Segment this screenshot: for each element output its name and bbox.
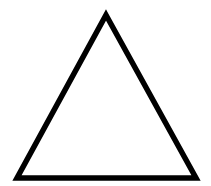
canvas-background bbox=[0, 0, 211, 186]
triangle-figure bbox=[0, 0, 211, 186]
figure-canvas bbox=[0, 0, 211, 186]
